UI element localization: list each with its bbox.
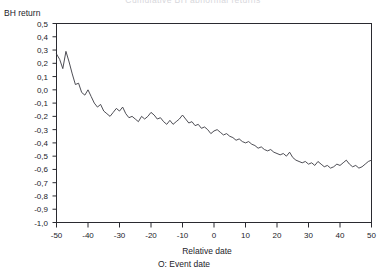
y-tick-label: 0,3 <box>10 46 48 55</box>
y-tick-label: -0,1 <box>10 99 48 108</box>
x-tick-label: 50 <box>367 231 376 240</box>
y-tick-label: 0,1 <box>10 72 48 81</box>
x-tick-label: 0 <box>212 231 216 240</box>
x-tick-label: 40 <box>336 231 345 240</box>
y-tick-label: -0,6 <box>10 165 48 174</box>
y-axis-ticks <box>53 24 57 223</box>
y-tick-label: -0,3 <box>10 125 48 134</box>
x-tick-label: -10 <box>177 231 189 240</box>
y-tick-label: 0,4 <box>10 32 48 41</box>
event-date-note-text: O: Event date <box>158 259 228 269</box>
x-tick-label: 30 <box>304 231 313 240</box>
x-tick-label: -50 <box>51 231 63 240</box>
y-tick-label: -0,4 <box>10 138 48 147</box>
y-tick-label: -0,9 <box>10 205 48 214</box>
y-tick-label: 0,2 <box>10 59 48 68</box>
x-tick-label: -20 <box>145 231 157 240</box>
event-date-note: O: Event date <box>0 259 386 269</box>
y-tick-label: -0,8 <box>10 191 48 200</box>
x-tick-label: 20 <box>273 231 282 240</box>
y-tick-label: -0,7 <box>10 178 48 187</box>
y-tick-label: 0,5 <box>10 19 48 28</box>
y-axis-label: BH return <box>4 8 40 18</box>
series-line-bh-return <box>57 51 372 168</box>
x-tick-label: 10 <box>241 231 250 240</box>
x-axis-label-text: Relative date <box>154 246 232 256</box>
y-tick-label: -1,0 <box>10 218 48 227</box>
y-tick-label: -0,5 <box>10 152 48 161</box>
y-tick-label: 0,0 <box>10 85 48 94</box>
x-tick-label: -30 <box>114 231 126 240</box>
chart-figure: Cumulative BH abnormal returns BH return… <box>0 0 386 275</box>
x-tick-label: -40 <box>82 231 94 240</box>
y-tick-label: -0,2 <box>10 112 48 121</box>
x-axis-label: Relative date <box>0 246 386 256</box>
x-axis-ticks <box>57 223 372 228</box>
plot-frame <box>57 24 372 223</box>
chart-title: Cumulative BH abnormal returns <box>0 0 386 3</box>
